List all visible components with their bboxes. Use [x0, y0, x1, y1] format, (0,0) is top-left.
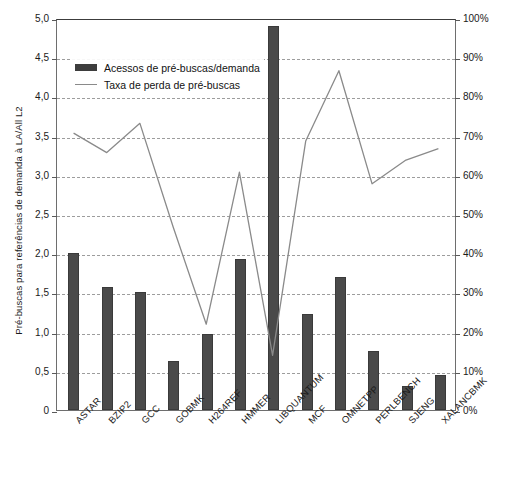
y-axis-right-tick-label: 80%	[463, 92, 483, 102]
plot-area: 00,51,01,52,02,53,03,54,04,55,0 0%10%20%…	[56, 19, 456, 411]
legend-item-line: Taxa de perda de pré-buscas	[75, 76, 260, 93]
legend-label-line: Taxa de perda de pré-buscas	[104, 79, 240, 91]
y-axis-left-tick-label: 0	[43, 406, 49, 416]
y-axis-left-tick-label: 2,0	[35, 249, 49, 259]
x-axis-category-labels: ASTARBZIP2GCCGOBMKH264REFHMMERLIBQUANTUM…	[56, 414, 456, 483]
y-axis-right-tick-mark	[455, 138, 460, 139]
y-axis-left-tick-label: 1,0	[35, 328, 49, 338]
y-axis-left-tick-label: 5,0	[35, 14, 49, 24]
chart-root: Pré-buscas para referências de demanda à…	[0, 0, 514, 483]
y-axis-left-tick-label: 0,5	[35, 367, 49, 377]
y-axis-right-tick-mark	[455, 334, 460, 335]
y-axis-right-tick-label: 90%	[463, 53, 483, 63]
y-axis-right-tick-label: 70%	[463, 132, 483, 142]
y-axis-right-tick-label: 60%	[463, 171, 483, 181]
y-axis-right-tick-mark	[455, 59, 460, 60]
y-axis-right-tick-mark	[455, 98, 460, 99]
legend: Acessos de pré-buscas/demanda Taxa de pe…	[71, 57, 264, 95]
y-axis-right-tick-mark	[455, 177, 460, 178]
y-axis-right-tick-mark	[455, 216, 460, 217]
y-axis-right-tick-label: 40%	[463, 249, 483, 259]
y-axis-left-tick-label: 2,5	[35, 210, 49, 220]
legend-bar-swatch-icon	[75, 64, 97, 71]
y-axis-right-tick-mark	[455, 255, 460, 256]
y-axis-left-tick-label: 4,5	[35, 53, 49, 63]
legend-item-bars: Acessos de pré-buscas/demanda	[75, 59, 260, 76]
legend-label-bars: Acessos de pré-buscas/demanda	[104, 62, 260, 74]
y-axis-left-tick-label: 3,0	[35, 171, 49, 181]
y-axis-left-tick-label: 3,5	[35, 132, 49, 142]
y-axis-right-tick-label: 100%	[463, 14, 489, 24]
y-axis-left-tick-label: 1,5	[35, 288, 49, 298]
y-axis-left-tick-label: 4,0	[35, 92, 49, 102]
y-axis-right-tick-mark	[455, 373, 460, 374]
y-axis-right-tick-label: 30%	[463, 288, 483, 298]
y-axis-left-title: Pré-buscas para referências de demanda à…	[13, 51, 24, 391]
y-axis-right-tick-mark	[455, 20, 460, 21]
y-axis-right-tick-mark	[455, 294, 460, 295]
y-axis-right-tick-label: 50%	[463, 210, 483, 220]
y-axis-right-tick-label: 0%	[463, 406, 477, 416]
y-axis-left-tick-mark	[52, 412, 57, 413]
legend-line-swatch-icon	[75, 81, 97, 88]
y-axis-right-tick-label: 20%	[463, 328, 483, 338]
line-path	[74, 71, 439, 356]
